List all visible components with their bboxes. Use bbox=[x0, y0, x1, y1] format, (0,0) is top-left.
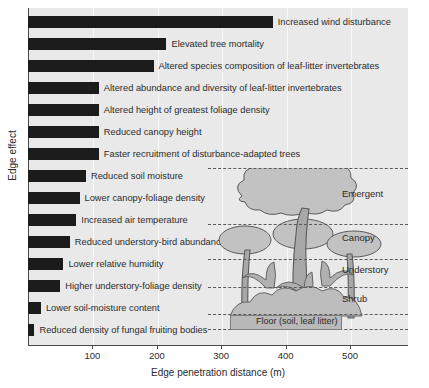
bar-category-label: Lower soil-moisture content bbox=[46, 303, 160, 313]
bar-row: Higher understory-foliage density bbox=[28, 280, 202, 292]
bar-category-label: Lower relative humidity bbox=[68, 259, 163, 269]
bar-row: Lower soil-moisture content bbox=[28, 302, 160, 314]
forest-strata-diagram: Floor (soil, leaf litter) Emergent Canop… bbox=[208, 168, 408, 345]
x-tick-mark bbox=[157, 345, 158, 349]
stratum-label-emergent: Emergent bbox=[342, 188, 383, 199]
bar bbox=[28, 38, 166, 50]
bar-row: Reduced soil moisture bbox=[28, 170, 183, 182]
stratum-divider-top bbox=[208, 168, 408, 169]
bar-row: Increased wind disturbance bbox=[28, 16, 391, 28]
bar-row: Faster recruitment of disturbance-adapte… bbox=[28, 148, 300, 160]
x-axis-title: Edge penetration distance (m) bbox=[28, 367, 408, 378]
y-axis-title: Edge effect bbox=[7, 111, 18, 201]
bar-row: Altered species composition of leaf-litt… bbox=[28, 60, 379, 72]
bar-row: Lower relative humidity bbox=[28, 258, 164, 270]
bar bbox=[28, 82, 99, 94]
bar-category-label: Faster recruitment of disturbance-adapte… bbox=[104, 149, 300, 159]
x-tick-label: 100 bbox=[84, 350, 100, 361]
bar bbox=[28, 170, 86, 182]
bar-category-label: Increased wind disturbance bbox=[278, 17, 391, 27]
bar-row: Reduced density of fungal fruiting bodie… bbox=[28, 324, 207, 336]
bar bbox=[28, 302, 41, 314]
stratum-divider-understory-shrub bbox=[208, 287, 408, 288]
bar bbox=[28, 104, 99, 116]
stratum-label-shrub: Shrub bbox=[342, 293, 367, 304]
bar bbox=[28, 324, 34, 336]
bar-category-label: Altered species composition of leaf-litt… bbox=[159, 61, 380, 71]
x-tick-label: 400 bbox=[278, 350, 294, 361]
bar-category-label: Higher understory-foliage density bbox=[65, 281, 201, 291]
bar-row: Altered height of greatest foliage densi… bbox=[28, 104, 270, 116]
edge-effect-chart-figure: 100200300400500 Increased wind disturban… bbox=[0, 0, 429, 388]
x-tick-mark bbox=[92, 345, 93, 349]
bar-row: Reduced canopy height bbox=[28, 126, 202, 138]
bar bbox=[28, 148, 99, 160]
stratum-divider-emergent-canopy bbox=[208, 224, 408, 225]
x-tick-label: 200 bbox=[149, 350, 165, 361]
bar-category-label: Reduced understory-bird abundance bbox=[75, 237, 226, 247]
stratum-label-canopy: Canopy bbox=[342, 232, 375, 243]
stratum-divider-canopy-understory bbox=[208, 259, 408, 260]
bar-category-label: Lower canopy-foliage density bbox=[85, 193, 205, 203]
bar-row: Altered abundance and diversity of leaf-… bbox=[28, 82, 342, 94]
x-tick-mark bbox=[286, 345, 287, 349]
bar-category-label: Reduced density of fungal fruiting bodie… bbox=[39, 325, 207, 335]
bar-category-label: Elevated tree mortality bbox=[171, 39, 264, 49]
bar-row: Lower canopy-foliage density bbox=[28, 192, 205, 204]
bar-category-label: Reduced soil moisture bbox=[91, 171, 183, 181]
bar bbox=[28, 192, 80, 204]
bar bbox=[28, 280, 60, 292]
x-tick-label: 300 bbox=[213, 350, 229, 361]
bar-category-label: Altered height of greatest foliage densi… bbox=[104, 105, 270, 115]
bar bbox=[28, 236, 70, 248]
bar-category-label: Altered abundance and diversity of leaf-… bbox=[104, 83, 342, 93]
x-tick-mark bbox=[221, 345, 222, 349]
x-tick-mark bbox=[350, 345, 351, 349]
bar-row: Reduced understory-bird abundance bbox=[28, 236, 226, 248]
bar bbox=[28, 214, 76, 226]
stratum-label-understory: Understory bbox=[342, 264, 388, 275]
x-tick-label: 500 bbox=[342, 350, 358, 361]
bar-category-label: Reduced canopy height bbox=[104, 127, 202, 137]
bar bbox=[28, 60, 154, 72]
bar bbox=[28, 16, 273, 28]
bar-category-label: Increased air temperature bbox=[81, 215, 187, 225]
bar-row: Increased air temperature bbox=[28, 214, 188, 226]
bar bbox=[28, 258, 63, 270]
bar bbox=[28, 126, 99, 138]
bar-row: Elevated tree mortality bbox=[28, 38, 264, 50]
stratum-label-floor: Floor (soil, leaf litter) bbox=[256, 316, 338, 326]
